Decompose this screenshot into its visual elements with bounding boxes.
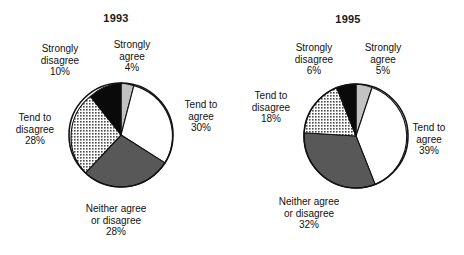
pie-1993: [68, 82, 174, 188]
slice-label-strongly-agree: Strongly agree 4%: [101, 39, 163, 74]
two-pie-chart-figure: 1993: [0, 0, 464, 255]
slice-label-tend-to-agree: Tend to agree 39%: [398, 122, 460, 157]
slice-label-strongly-disagree: Strongly disagree 10%: [22, 43, 98, 78]
slice-label-tend-to-disagree: Tend to disagree 28%: [2, 112, 68, 147]
pie-chart-panel-1993: 1993: [0, 0, 232, 255]
pie-1995: [303, 83, 409, 189]
pie-1995-svg: [303, 83, 409, 189]
pie-1993-svg: [68, 82, 174, 188]
chart-title-1995: 1995: [232, 13, 464, 25]
slice-label-tend-to-agree: Tend to agree 30%: [170, 99, 232, 134]
slice-label-neither: Neither agree or disagree 28%: [57, 203, 175, 238]
slice-label-neither: Neither agree or disagree 32%: [254, 196, 364, 231]
slice-label-strongly-disagree: Strongly disagree 6%: [279, 42, 349, 77]
slice-label-tend-to-disagree: Tend to disagree 18%: [240, 90, 302, 125]
slice-label-strongly-agree: Strongly agree 5%: [352, 42, 414, 77]
chart-title-1993: 1993: [0, 12, 232, 24]
pie-chart-panel-1995: 1995: [232, 0, 464, 255]
